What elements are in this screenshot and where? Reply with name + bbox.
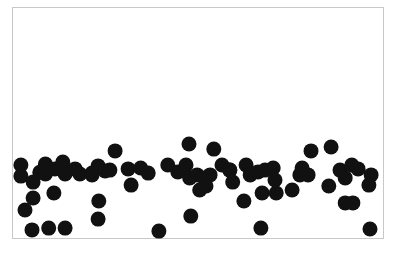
data-point <box>91 194 106 209</box>
data-point <box>301 167 316 182</box>
data-point <box>124 178 139 193</box>
data-point <box>25 222 40 237</box>
data-point <box>199 179 214 194</box>
data-point <box>236 194 251 209</box>
data-point <box>253 221 268 236</box>
data-point <box>183 209 198 224</box>
data-point <box>285 183 300 198</box>
data-point <box>363 222 378 237</box>
data-point <box>361 178 376 193</box>
data-point <box>26 191 41 206</box>
data-point <box>58 221 73 236</box>
data-point <box>91 212 106 227</box>
data-point <box>321 179 336 194</box>
data-point <box>102 163 117 178</box>
data-point <box>206 142 221 157</box>
data-point <box>182 137 197 152</box>
data-point <box>324 140 339 155</box>
data-point <box>46 186 61 201</box>
data-point <box>141 166 156 181</box>
data-point <box>108 143 123 158</box>
data-point <box>269 186 284 201</box>
data-point <box>225 175 240 190</box>
data-point <box>345 195 360 210</box>
plot-frame <box>13 8 384 239</box>
data-point <box>151 224 166 239</box>
data-point <box>351 161 366 176</box>
data-point <box>338 170 353 185</box>
data-point <box>41 221 56 236</box>
data-point <box>304 143 319 158</box>
scatter-plot <box>0 0 396 254</box>
data-point <box>255 186 270 201</box>
data-point <box>268 173 283 188</box>
